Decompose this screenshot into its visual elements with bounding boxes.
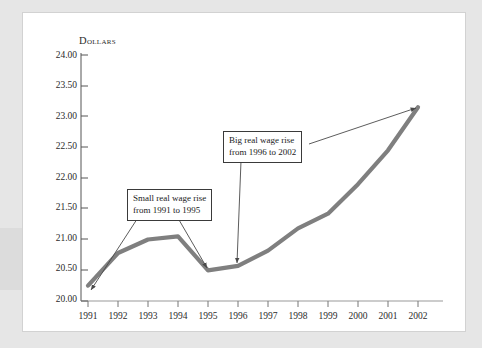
annotation-arrow-big-to-2002 bbox=[309, 108, 416, 144]
annotation-big-line1: Big real wage rise bbox=[229, 135, 294, 145]
y-axis-ticks bbox=[81, 55, 88, 301]
annotation-arrow-small-to-1991 bbox=[91, 213, 141, 290]
annotation-small-line1: Small real wage rise bbox=[133, 193, 206, 203]
annotation-arrow-big-to-1996 bbox=[237, 161, 241, 263]
annotation-callout-big-rise: Big real wage rise from 1996 to 2002 bbox=[223, 131, 302, 163]
chart-svg bbox=[23, 13, 467, 333]
x-axis-ticks bbox=[88, 301, 418, 307]
annotation-callout-small-rise: Small real wage rise from 1991 to 1995 bbox=[127, 189, 212, 221]
annotation-small-line2: from 1991 to 1995 bbox=[133, 205, 206, 217]
chart-plot-area: Dollars 24.00 23.50 23.00 22.50 22.00 21… bbox=[23, 13, 467, 333]
chart-card: Dollars 24.00 23.50 23.00 22.50 22.00 21… bbox=[22, 12, 466, 332]
page-left-accent-block bbox=[0, 228, 22, 290]
annotation-big-line2: from 1996 to 2002 bbox=[229, 147, 296, 159]
